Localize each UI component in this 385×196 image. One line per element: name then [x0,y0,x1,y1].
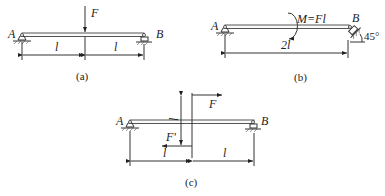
label-force-f-prime: F' [165,130,176,144]
caption-b: (b) [294,71,307,84]
label-a: A [7,27,16,41]
label-a: A [115,114,124,128]
label-arm: l [167,117,181,121]
label-b: B [261,114,269,128]
angle-arc [360,34,362,42]
label-moment: M=Fl [296,12,326,26]
label-b: B [156,27,164,41]
label-b: B [352,11,360,25]
caption-c: (c) [185,176,198,189]
label-span-left: l [55,40,59,54]
label-span-left: l [163,146,167,160]
figure-a: A B F l l (a) [7,6,164,83]
label-angle: 45° [364,30,379,42]
caption-a: (a) [76,70,89,83]
beam-a [22,33,144,37]
label-force-f: F [208,97,217,111]
label-span-right: l [114,40,118,54]
figure-b: 45° A B M=Fl 2l (b) [210,11,379,84]
label-span-right: l [223,146,227,160]
label-force-f: F [90,6,99,20]
beam-b [225,25,349,29]
label-span: 2l [281,38,291,52]
figure-c: A B l F F' l l (c) [115,93,269,189]
beam-diagrams: A B F l l (a) [0,0,385,196]
label-a: A [210,19,219,33]
